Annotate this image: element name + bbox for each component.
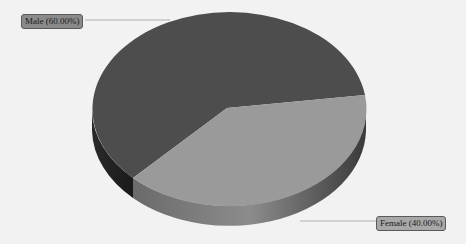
male-slice-label: Male (60.00%) [21,14,83,29]
pie-chart [0,0,466,244]
female-slice-label: Female (40.00%) [376,216,446,231]
